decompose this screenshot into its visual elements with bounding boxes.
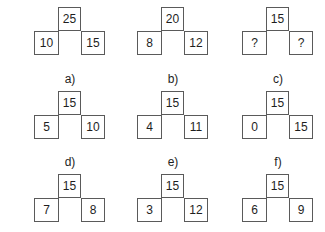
left-unknown-box: ? bbox=[242, 31, 267, 55]
right-unknown-box: ? bbox=[289, 31, 313, 55]
top-box: 15 bbox=[266, 7, 289, 31]
top-box: 15 bbox=[58, 174, 81, 198]
option-c-label: c) bbox=[242, 72, 314, 86]
option-f-label: f) bbox=[242, 155, 314, 169]
option-b-label: b) bbox=[137, 72, 209, 86]
left-box: 7 bbox=[34, 198, 59, 222]
left-box: 5 bbox=[34, 115, 59, 139]
option-a[interactable]: 15 5 10 bbox=[34, 91, 106, 141]
right-box: 12 bbox=[184, 198, 208, 222]
option-b[interactable]: 15 4 11 bbox=[137, 91, 209, 141]
top-box: 15 bbox=[161, 174, 184, 198]
example-puzzle-2: 20 8 12 bbox=[137, 7, 209, 57]
option-d-label: d) bbox=[34, 155, 106, 169]
right-box: 10 bbox=[81, 115, 105, 139]
right-box: 15 bbox=[81, 31, 105, 55]
top-box: 20 bbox=[161, 7, 184, 31]
top-box: 25 bbox=[58, 7, 81, 31]
right-box: 15 bbox=[289, 115, 313, 139]
left-box: 10 bbox=[34, 31, 59, 55]
option-d[interactable]: 15 7 8 bbox=[34, 174, 106, 224]
left-box: 3 bbox=[137, 198, 162, 222]
top-box: 15 bbox=[58, 91, 81, 115]
left-box: 6 bbox=[242, 198, 267, 222]
right-box: 8 bbox=[81, 198, 105, 222]
right-box: 12 bbox=[184, 31, 208, 55]
top-box: 15 bbox=[266, 174, 289, 198]
option-e[interactable]: 15 3 12 bbox=[137, 174, 209, 224]
option-e-label: e) bbox=[137, 155, 209, 169]
left-box: 0 bbox=[242, 115, 267, 139]
option-c[interactable]: 15 0 15 bbox=[242, 91, 314, 141]
question-puzzle: 15 ? ? bbox=[242, 7, 314, 57]
left-box: 4 bbox=[137, 115, 162, 139]
top-box: 15 bbox=[161, 91, 184, 115]
right-box: 11 bbox=[184, 115, 208, 139]
left-box: 8 bbox=[137, 31, 162, 55]
top-box: 15 bbox=[266, 91, 289, 115]
option-f[interactable]: 15 6 9 bbox=[242, 174, 314, 224]
example-puzzle-1: 25 10 15 bbox=[34, 7, 106, 57]
option-a-label: a) bbox=[34, 72, 106, 86]
right-box: 9 bbox=[289, 198, 313, 222]
